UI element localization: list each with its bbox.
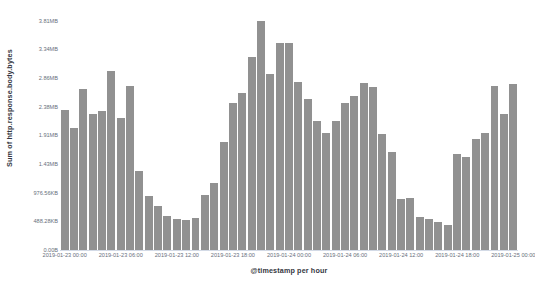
x-axis-tick: 2019-01-23 06:00 [99,252,143,258]
bar-slot [509,6,518,250]
y-axis-tick: 3.81MB [39,18,58,24]
y-axis-tick: 3.34MB [39,46,58,52]
x-axis-tick: 2019-01-24 18:00 [435,252,479,258]
y-axis-tick-labels: 0.00B488.28KB976.56KB1.43MB1.91MB2.38MB2… [18,0,60,288]
bar-slot [256,6,265,250]
bar[interactable] [192,218,200,251]
bar-slot [125,6,134,250]
bar-slot [452,6,461,250]
x-axis-tick-labels: 2019-01-23 00:002019-01-23 06:002019-01-… [0,252,530,266]
bar[interactable] [61,110,69,250]
bar[interactable] [201,195,209,250]
bar[interactable] [360,83,368,250]
bar[interactable] [509,84,517,250]
bar[interactable] [425,219,433,250]
bar[interactable] [388,152,396,250]
bar[interactable] [500,114,508,250]
bar-slot [200,6,209,250]
bar-slot [144,6,153,250]
bar[interactable] [163,216,171,250]
bar-slot [471,6,480,250]
bar[interactable] [491,86,499,250]
bar[interactable] [107,71,115,250]
bar-slot [312,6,321,250]
bar[interactable] [79,89,87,250]
bar-slot [396,6,405,250]
bar-slot [378,6,387,250]
bar[interactable] [378,134,386,250]
bar[interactable] [472,139,480,250]
bar-slot [172,6,181,250]
bar-slot [247,6,256,250]
bar-slot [284,6,293,250]
bar[interactable] [332,121,340,250]
bar[interactable] [462,157,470,250]
bar[interactable] [145,196,153,250]
bar-slot [424,6,433,250]
bar[interactable] [285,43,293,250]
bar[interactable] [210,183,218,250]
bar[interactable] [229,103,237,250]
bar[interactable] [98,111,106,250]
bar[interactable] [406,198,414,250]
x-axis-tick: 2019-01-23 12:00 [155,252,199,258]
bar-slot [191,6,200,250]
bar-slot [499,6,508,250]
bar[interactable] [117,118,125,250]
bar[interactable] [276,43,284,250]
bar-slot [88,6,97,250]
bar[interactable] [397,199,405,250]
bar[interactable] [182,220,190,250]
bar[interactable] [294,82,302,250]
bar-slot [238,6,247,250]
bar-series [60,6,518,250]
bar[interactable] [313,121,321,250]
bar[interactable] [70,128,78,250]
x-axis-tick: 2019-01-24 06:00 [323,252,367,258]
x-axis-tick: 2019-01-24 00:00 [267,252,311,258]
bar[interactable] [453,154,461,250]
bar[interactable] [89,114,97,250]
bar[interactable] [481,133,489,250]
bar[interactable] [257,21,265,250]
bar[interactable] [444,225,452,250]
x-axis-title: @timestamp per hour [60,266,518,275]
bar[interactable] [434,222,442,250]
bar[interactable] [220,142,228,250]
bar-slot [462,6,471,250]
bar[interactable] [135,171,143,250]
bar-slot [97,6,106,250]
bar[interactable] [369,87,377,250]
bar[interactable] [238,93,246,250]
bar-slot [219,6,228,250]
bar-slot [135,6,144,250]
y-axis-tick: 2.38MB [39,104,58,110]
bar[interactable] [322,133,330,250]
bar[interactable] [416,217,424,250]
y-axis-tick: 976.56KB [33,190,58,196]
bar[interactable] [341,103,349,250]
bar[interactable] [248,57,256,250]
plot-area [60,6,518,250]
bar-slot [415,6,424,250]
bar[interactable] [173,219,181,250]
bar-slot [163,6,172,250]
bar-slot [181,6,190,250]
bar[interactable] [154,206,162,250]
bar[interactable] [304,99,312,250]
x-axis-tick: 2019-01-23 18:00 [211,252,255,258]
bar-slot [116,6,125,250]
bar-slot [266,6,275,250]
bar-slot [69,6,78,250]
bar-slot [387,6,396,250]
bar-slot [303,6,312,250]
bar-slot [331,6,340,250]
bar[interactable] [266,74,274,250]
bar[interactable] [126,86,134,250]
bar-slot [490,6,499,250]
bar[interactable] [350,96,358,250]
bar-slot [434,6,443,250]
bar-slot [210,6,219,250]
y-axis-title: Sum of http.response.body.bytes [0,0,18,252]
